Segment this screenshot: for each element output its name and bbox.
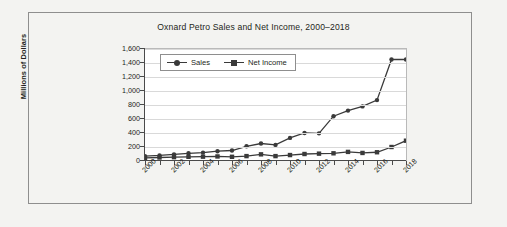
data-point-marker bbox=[404, 139, 406, 143]
chart-legend: Sales Net Income bbox=[160, 54, 296, 71]
data-point-marker bbox=[259, 152, 263, 156]
data-point-marker bbox=[404, 57, 406, 61]
y-axis-tick-mark bbox=[140, 132, 145, 133]
data-point-marker bbox=[360, 151, 364, 155]
y-axis-tick-mark bbox=[140, 76, 145, 77]
data-point-marker bbox=[201, 150, 205, 154]
legend-label-net-income: Net Income bbox=[248, 58, 287, 67]
y-axis-title: Millions of Dollars bbox=[19, 17, 28, 117]
data-point-marker bbox=[331, 151, 335, 155]
y-axis-tick-label: 0 bbox=[106, 156, 140, 165]
gridline bbox=[145, 91, 406, 92]
y-axis-tick-label: 1,000 bbox=[106, 86, 140, 95]
y-axis-tick-label: 800 bbox=[106, 100, 140, 109]
legend-item-sales: Sales bbox=[167, 58, 210, 67]
data-point-marker bbox=[244, 154, 248, 158]
data-point-marker bbox=[215, 154, 219, 158]
data-point-marker bbox=[201, 154, 205, 158]
legend-item-net-income: Net Income bbox=[224, 58, 287, 67]
x-axis-tick-mark bbox=[276, 161, 277, 165]
x-axis-tick-mark bbox=[189, 161, 190, 165]
x-axis-tick-mark bbox=[218, 161, 219, 165]
data-point-marker bbox=[317, 151, 321, 155]
data-point-marker bbox=[302, 152, 306, 156]
gridline bbox=[145, 77, 406, 78]
chart-page: Oxnard Petro Sales and Net Income, 2000–… bbox=[0, 0, 507, 227]
data-point-marker bbox=[389, 57, 393, 61]
data-point-marker bbox=[288, 153, 292, 157]
chart-title: Oxnard Petro Sales and Net Income, 2000–… bbox=[0, 22, 507, 32]
data-point-marker bbox=[331, 114, 335, 118]
gridline bbox=[145, 119, 406, 120]
y-axis-tick-mark bbox=[140, 90, 145, 91]
y-axis-tick-label: 1,600 bbox=[106, 44, 140, 53]
data-point-marker bbox=[346, 150, 350, 154]
x-axis-tick-mark bbox=[305, 161, 306, 165]
data-point-marker bbox=[186, 155, 190, 159]
y-axis-tick-mark bbox=[140, 62, 145, 63]
x-axis-tick-mark bbox=[160, 161, 161, 165]
data-point-marker bbox=[230, 155, 234, 159]
y-axis-tick-label: 600 bbox=[106, 114, 140, 123]
legend-label-sales: Sales bbox=[191, 58, 210, 67]
y-axis-tick-label: 1,400 bbox=[106, 58, 140, 67]
data-point-marker bbox=[375, 98, 379, 102]
x-axis-tick-mark bbox=[334, 161, 335, 165]
y-axis-tick-mark bbox=[140, 48, 145, 49]
data-point-marker bbox=[215, 149, 219, 153]
legend-marker-square-icon bbox=[224, 59, 244, 67]
gridline bbox=[145, 147, 406, 148]
data-point-marker bbox=[259, 141, 263, 145]
y-axis-tick-label: 200 bbox=[106, 142, 140, 151]
data-point-marker bbox=[346, 108, 350, 112]
gridline bbox=[145, 49, 406, 50]
gridline bbox=[145, 133, 406, 134]
y-axis-tick-label: 1,200 bbox=[106, 72, 140, 81]
gridline bbox=[145, 105, 406, 106]
y-axis-tick-mark bbox=[140, 118, 145, 119]
data-point-marker bbox=[230, 148, 234, 152]
y-axis-tick-mark bbox=[140, 146, 145, 147]
y-axis-tick-mark bbox=[140, 104, 145, 105]
legend-marker-circle-icon bbox=[167, 59, 187, 67]
data-point-marker bbox=[375, 150, 379, 154]
x-axis-tick-mark bbox=[247, 161, 248, 165]
y-axis-tick-labels: 02004006008001,0001,2001,4001,600 bbox=[100, 0, 140, 227]
data-point-marker bbox=[273, 154, 277, 158]
data-point-marker bbox=[172, 155, 176, 159]
y-axis-tick-label: 400 bbox=[106, 128, 140, 137]
data-point-marker bbox=[288, 136, 292, 140]
series-line-sales bbox=[145, 60, 406, 157]
x-axis-tick-mark bbox=[363, 161, 364, 165]
x-axis-tick-mark bbox=[392, 161, 393, 165]
